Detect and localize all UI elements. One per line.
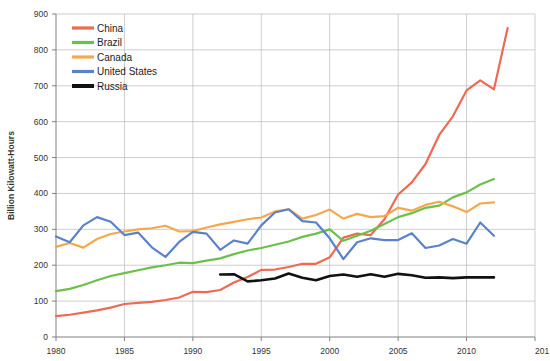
y-tick-label: 100 <box>34 296 48 306</box>
legend-label-canada: Canada <box>97 52 132 63</box>
x-tick-label: 1995 <box>252 346 271 356</box>
y-tick-label: 900 <box>34 9 48 19</box>
x-tick-label: 2010 <box>457 346 476 356</box>
x-tick-label: 2005 <box>389 346 408 356</box>
legend-label-china: China <box>97 23 124 34</box>
legend-label-brazil: Brazil <box>97 37 122 48</box>
y-tick-label: 200 <box>34 260 48 270</box>
y-axis-title: Billion Kilowatt-Hours <box>6 131 16 220</box>
x-tick-label: 1985 <box>115 346 134 356</box>
legend-label-united-states: United States <box>97 66 157 77</box>
x-tick-label: 1990 <box>183 346 202 356</box>
y-tick-label: 600 <box>34 117 48 127</box>
hydroelectricity-line-chart: 0100200300400500600700800900198019851990… <box>0 0 550 361</box>
y-tick-label: 400 <box>34 188 48 198</box>
y-tick-label: 700 <box>34 81 48 91</box>
chart-canvas: 0100200300400500600700800900198019851990… <box>0 0 550 361</box>
x-tick-label: 2000 <box>320 346 339 356</box>
x-tick-label: 201 <box>535 346 549 356</box>
y-tick-label: 0 <box>43 332 48 342</box>
x-tick-label: 1980 <box>47 346 66 356</box>
y-tick-label: 800 <box>34 45 48 55</box>
legend-label-russia: Russia <box>97 81 128 92</box>
y-tick-label: 300 <box>34 224 48 234</box>
y-tick-label: 500 <box>34 153 48 163</box>
